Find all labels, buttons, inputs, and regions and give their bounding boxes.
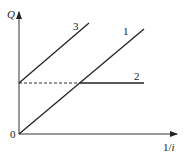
line-2-label: 2: [134, 70, 140, 82]
line-3: [19, 23, 89, 83]
x-axis-label: 1/i: [163, 141, 175, 153]
line-1: [19, 29, 144, 134]
origin-label: 0: [10, 128, 16, 140]
line-3-label: 3: [73, 20, 79, 32]
y-axis-label: Q: [7, 8, 15, 20]
q-vs-inverse-i-chart: Q 0 1/i 1 2 3: [0, 0, 189, 155]
line-1-label: 1: [123, 25, 129, 37]
